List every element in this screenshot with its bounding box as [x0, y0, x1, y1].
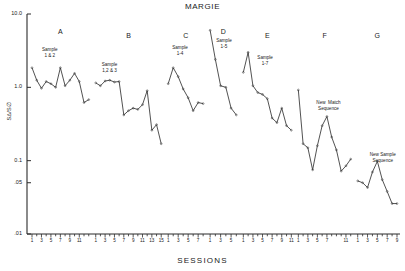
panel-annotation-a: Sample 1 & 2	[42, 47, 58, 59]
y-tick-label: 10.0	[0, 10, 22, 16]
x-tick-label: 3	[249, 238, 257, 243]
y-tick-label: .05	[0, 179, 22, 185]
panel-annotation-f: New Match Sequence	[316, 100, 340, 112]
panel-annotation-d: Sample 1-5	[216, 38, 232, 50]
x-tick-label: 5	[47, 238, 55, 243]
x-tick-label: 7	[120, 238, 128, 243]
x-tick-label: 9	[393, 238, 401, 243]
x-tick-label: 13	[148, 238, 156, 243]
x-tick-label: 1	[354, 238, 362, 243]
x-tick-label: 1	[164, 238, 172, 243]
x-tick-label: 7	[268, 238, 276, 243]
x-tick-label: 3	[364, 238, 372, 243]
x-tick-label: 7	[323, 238, 331, 243]
data-series-b	[96, 80, 161, 144]
x-tick-label: 5	[313, 238, 321, 243]
x-tick-label: 1	[239, 238, 247, 243]
panel-label-d: D	[208, 28, 238, 35]
x-tick-label: 5	[259, 238, 267, 243]
panel-label-g: G	[362, 32, 392, 39]
x-tick-label: 1	[92, 238, 100, 243]
x-tick-label: 11	[342, 238, 350, 243]
y-tick-label: 1.0	[0, 83, 22, 89]
data-series-a	[32, 68, 89, 103]
data-series-c	[168, 68, 203, 111]
panel-annotation-c: Sample 1-4	[172, 45, 188, 57]
panel-annotation-e: Sample 1-7	[257, 55, 273, 67]
panel-annotation-g: New Sample Sequence	[370, 152, 396, 164]
x-tick-label: 7	[56, 238, 64, 243]
figure-container: MARGIE S∆/S∅ SESSIONS 10.01.00.1.05.01AS…	[0, 0, 405, 271]
x-tick-label: 3	[174, 238, 182, 243]
x-tick-label: 5	[227, 238, 235, 243]
chart-plot-area	[0, 0, 405, 271]
panel-label-c: C	[171, 32, 201, 39]
y-tick-label: .01	[0, 230, 22, 236]
x-tick-label: 1	[28, 238, 36, 243]
x-tick-label: 5	[184, 238, 192, 243]
x-tick-label: 3	[217, 238, 225, 243]
panel-label-f: F	[310, 32, 340, 39]
x-tick-label: 11	[75, 238, 83, 243]
x-tick-label: 1	[206, 238, 214, 243]
panel-label-a: A	[45, 28, 75, 35]
x-tick-label: 3	[37, 238, 45, 243]
x-tick-label: 11	[139, 238, 147, 243]
y-tick-label: 0.1	[0, 157, 22, 163]
panel-annotation-b: Sample 1,2 & 3	[102, 62, 118, 74]
x-tick-label: 3	[304, 238, 312, 243]
x-tick-label: 9	[129, 238, 137, 243]
x-tick-label: 5	[373, 238, 381, 243]
panel-label-e: E	[252, 32, 282, 39]
x-tick-label: 9	[66, 238, 74, 243]
x-tick-label: 1	[294, 238, 302, 243]
x-tick-label: 7	[194, 238, 202, 243]
x-tick-label: 7	[383, 238, 391, 243]
x-tick-label: 5	[110, 238, 118, 243]
x-tick-label: 3	[101, 238, 109, 243]
x-tick-label: 9	[278, 238, 286, 243]
panel-label-b: B	[113, 32, 143, 39]
